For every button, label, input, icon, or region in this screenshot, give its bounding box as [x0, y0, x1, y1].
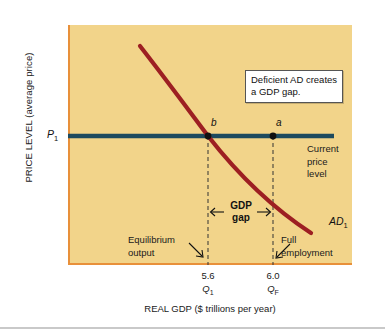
- ad1-label-subscript: 1: [344, 221, 348, 230]
- x-tick-qf: 6.0 QF: [248, 270, 298, 299]
- callout-box: Deficient AD creates a GDP gap.: [245, 70, 343, 103]
- x-tick-qf-subscript: F: [275, 288, 279, 295]
- full-employment-label: Full employment: [281, 234, 333, 259]
- ad1-label-text: AD: [329, 215, 344, 227]
- x-tick-qf-symbol: Q: [267, 283, 274, 294]
- point-b-marker: [205, 133, 212, 140]
- equilibrium-output-arrow: [189, 243, 203, 257]
- equilibrium-output-line-1: Equilibrium: [128, 234, 175, 247]
- gdp-gap-line-2: gap: [215, 212, 267, 224]
- x-tick-q1-symbol: Q: [202, 283, 209, 294]
- page-divider: [0, 327, 385, 329]
- ad1-curve-label: AD1: [329, 215, 348, 230]
- current-price-line-3: level: [307, 168, 339, 181]
- equilibrium-output-line-2: output: [128, 247, 175, 260]
- current-price-level-label: Current price level: [307, 143, 339, 181]
- current-price-line-1: Current: [307, 143, 339, 156]
- y-tick-p1: P1: [47, 128, 58, 143]
- gdp-gap-label: GDP gap: [215, 200, 267, 224]
- x-tick-qf-symbol-group: QF: [248, 283, 298, 299]
- y-axis-label: PRICE LEVEL (average price): [23, 13, 34, 223]
- gdp-gap-line-1: GDP: [215, 200, 267, 212]
- current-price-line-2: price: [307, 156, 339, 169]
- x-tick-q1: 5.6 Q1: [183, 270, 233, 299]
- x-tick-qf-value: 6.0: [266, 270, 279, 281]
- x-tick-q1-subscript: 1: [210, 288, 214, 295]
- point-b-label: b: [211, 117, 217, 128]
- figure-container: PRICE LEVEL (average price) REAL GDP ($ …: [0, 0, 385, 334]
- y-tick-p1-symbol: P: [47, 128, 54, 140]
- x-tick-q1-symbol-group: Q1: [183, 283, 233, 299]
- x-tick-q1-value: 5.6: [201, 270, 214, 281]
- point-a-marker: [270, 133, 277, 140]
- full-employment-line-2: employment: [281, 247, 333, 260]
- x-axis-label: REAL GDP ($ trillions per year): [68, 303, 352, 314]
- point-a-label: a: [276, 117, 282, 128]
- equilibrium-output-label: Equilibrium output: [128, 234, 175, 259]
- full-employment-line-1: Full: [281, 234, 333, 247]
- y-tick-p1-subscript: 1: [54, 134, 58, 143]
